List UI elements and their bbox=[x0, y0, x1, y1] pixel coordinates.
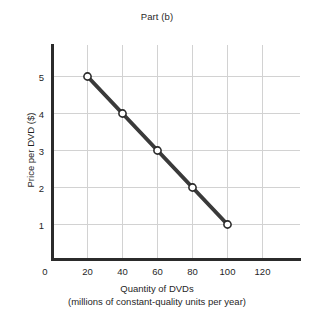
x-tick-label-60: 60 bbox=[152, 266, 163, 277]
y-axis-title: Price per DVD ($) bbox=[25, 113, 36, 188]
data-point-marker bbox=[119, 110, 126, 117]
x-tick-label-40: 40 bbox=[117, 266, 128, 277]
x-tick-label-0: 0 bbox=[42, 266, 47, 277]
data-point-marker bbox=[189, 184, 196, 191]
x-tick-label-20: 20 bbox=[82, 266, 93, 277]
y-tick-label-5: 5 bbox=[30, 71, 44, 82]
x-axis-title-line2: (millions of constant-quality units per … bbox=[0, 295, 314, 308]
data-point-marker bbox=[84, 73, 91, 80]
data-point-marker bbox=[154, 147, 161, 154]
x-axis-title-line1: Quantity of DVDs bbox=[120, 283, 193, 294]
x-tick-label-100: 100 bbox=[220, 266, 236, 277]
x-axis-title: Quantity of DVDs (millions of constant-q… bbox=[0, 282, 314, 308]
x-tick-label-80: 80 bbox=[187, 266, 198, 277]
x-tick-label-120: 120 bbox=[255, 266, 271, 277]
chart-figure: Part (b) bbox=[0, 0, 314, 314]
vertical-gridlines bbox=[88, 45, 263, 259]
data-point-marker bbox=[224, 221, 231, 228]
y-tick-label-1: 1 bbox=[30, 219, 44, 230]
